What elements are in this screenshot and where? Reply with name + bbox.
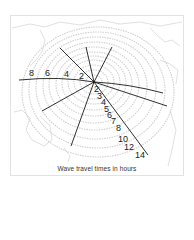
time-label-west-6: 6 [45, 69, 50, 78]
time-label-se-12: 12 [124, 143, 134, 152]
time-label-west-2: 2 [79, 72, 84, 81]
ray-south [71, 82, 94, 146]
epicenter-marker [93, 81, 95, 83]
time-label-west-4: 4 [64, 70, 69, 79]
map-caption: Wave travel times in hours [0, 165, 194, 172]
ray-east [94, 82, 163, 93]
ray-southeast [94, 82, 148, 155]
time-label-se-14: 14 [135, 151, 145, 160]
time-label-se-8: 8 [116, 124, 121, 133]
time-label-west-8: 8 [29, 69, 34, 78]
